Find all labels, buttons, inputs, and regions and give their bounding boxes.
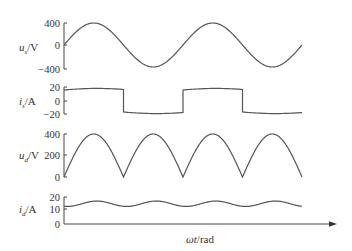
ytick-is-20: 20 <box>50 82 61 93</box>
xaxis-label: ωt/rad <box>186 233 214 245</box>
panel-us: us/V 400 0 −400 <box>19 18 302 75</box>
ylabel-is: is/A <box>19 95 36 110</box>
ud-waveform <box>64 134 302 177</box>
ytick-id-0: 0 <box>55 219 60 230</box>
ylabel-ud: ud/V <box>19 149 39 164</box>
ytick-is-0: 0 <box>55 96 60 107</box>
yaxis-id <box>64 197 67 224</box>
ytick-us-neg400: −400 <box>38 64 60 75</box>
ytick-us-0: 0 <box>55 40 60 51</box>
ylabel-id: id/A <box>19 203 37 218</box>
yaxis-us <box>64 23 67 69</box>
ytick-us-400: 400 <box>44 18 60 29</box>
time-axis: ωt/rad <box>64 221 337 245</box>
yaxis-is <box>64 87 67 114</box>
ylabel-us: us/V <box>19 41 38 56</box>
ytick-ud-400: 400 <box>44 129 60 140</box>
us-waveform <box>64 23 302 67</box>
xaxis-arrow-icon <box>329 221 337 227</box>
waveform-figure: us/V 400 0 −400 is/A 20 0 −20 ud/V 400 2… <box>0 0 352 251</box>
ytick-ud-200: 200 <box>44 150 60 161</box>
ytick-id-10: 10 <box>50 204 61 215</box>
ytick-ud-0: 0 <box>55 172 60 183</box>
panel-ud: ud/V 400 200 0 <box>19 129 302 183</box>
ytick-is-neg20: −20 <box>44 109 60 120</box>
id-waveform <box>64 201 302 206</box>
is-waveform <box>64 88 302 113</box>
panel-is: is/A 20 0 −20 <box>19 82 302 120</box>
ytick-id-20: 20 <box>50 192 61 203</box>
